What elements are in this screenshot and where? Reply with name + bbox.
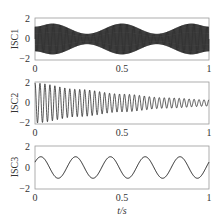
xtick-1: 1 [207,127,212,138]
ylabel-isc2: ISC2 [9,93,20,114]
panel-isc1: 2 0 −2 0 0.5 1 ISC1 [9,13,212,74]
xtick-1: 1 [207,63,212,74]
xtick-0: 0 [33,192,38,203]
ytick-2: 2 [25,77,30,88]
xlabel: t/s [117,205,127,216]
ytick-2: 2 [25,13,30,24]
isc3-line [35,157,209,179]
isc2-line [35,83,209,123]
axes-box [35,146,209,189]
ylabel-isc3: ISC3 [9,157,20,178]
xtick-0.5: 0.5 [116,192,129,203]
xtick-0: 0 [33,63,38,74]
xtick-0: 0 [33,127,38,138]
ytick-neg2: −2 [19,117,30,128]
ylabel-isc1: ISC1 [9,29,20,50]
ytick-neg2: −2 [19,183,30,194]
panel-isc2: 2 0 −2 0 0.5 1 ISC2 [9,77,212,138]
isc1-line [35,24,209,55]
ytick-2: 2 [25,141,30,152]
ytick-0: 0 [25,97,30,108]
xtick-0.5: 0.5 [116,63,129,74]
xtick-1: 1 [207,192,212,203]
xtick-0.5: 0.5 [116,127,129,138]
ytick-neg2: −2 [19,53,30,64]
panel-isc3: 2 0 −2 0 0.5 1 ISC3 t/s [9,141,212,216]
ytick-0: 0 [25,162,30,173]
figure: 2 0 −2 0 0.5 1 ISC1 2 0 −2 0 0.5 1 ISC2 … [0,0,219,223]
ytick-0: 0 [25,33,30,44]
